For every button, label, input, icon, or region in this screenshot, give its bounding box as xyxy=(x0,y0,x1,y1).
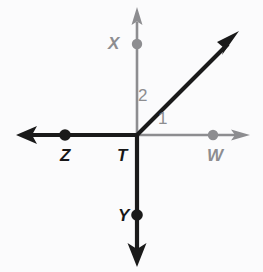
ray-TW-right xyxy=(137,130,250,141)
point-dot-X xyxy=(132,39,142,49)
angle-label-1: 1 xyxy=(158,110,167,127)
diagram-canvas xyxy=(0,0,263,272)
point-label-Z: Z xyxy=(60,147,71,164)
point-label-Y: Y xyxy=(118,207,130,224)
ray-T-diagonal xyxy=(137,31,239,135)
ray-TZ-left xyxy=(16,126,137,144)
point-dot-W xyxy=(208,130,218,140)
point-dot-Y xyxy=(131,209,143,221)
ray-TY-down xyxy=(128,135,147,267)
ray-TX-up xyxy=(132,7,143,135)
point-dot-Z xyxy=(59,129,71,141)
point-label-T: T xyxy=(117,147,128,164)
angle-label-2: 2 xyxy=(138,87,147,104)
point-label-X: X xyxy=(108,35,120,52)
geometry-diagram: X Y Z T W 1 2 xyxy=(0,0,263,272)
ray-T-diagonal-shaft xyxy=(137,44,228,135)
point-label-W: W xyxy=(207,147,223,164)
